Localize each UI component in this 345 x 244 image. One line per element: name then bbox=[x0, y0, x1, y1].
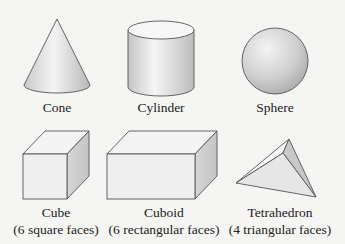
sphere-label: Sphere bbox=[256, 99, 294, 116]
cube-label: Cube bbox=[42, 204, 71, 221]
tetrahedron-description: (4 triangular faces) bbox=[229, 221, 332, 238]
cuboid-label: Cuboid bbox=[144, 204, 184, 221]
cone-label: Cone bbox=[43, 99, 72, 116]
sphere-shape bbox=[242, 28, 308, 94]
cylinder-shape bbox=[128, 21, 194, 96]
cuboid-shape bbox=[107, 131, 217, 199]
cuboid-description: (6 rectangular faces) bbox=[109, 221, 220, 238]
cone-shape bbox=[24, 19, 90, 93]
cylinder-label: Cylinder bbox=[137, 99, 184, 116]
tetrahedron-shape bbox=[236, 139, 316, 197]
cube-description: (6 square faces) bbox=[13, 221, 98, 238]
cube-shape bbox=[23, 131, 89, 199]
tetrahedron-label: Tetrahedron bbox=[247, 204, 312, 221]
